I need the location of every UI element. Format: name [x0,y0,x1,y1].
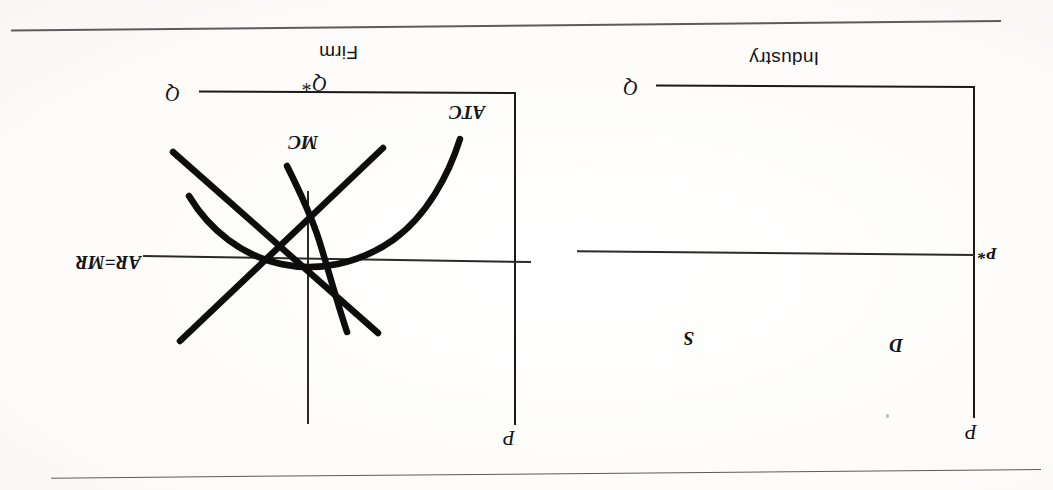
panel-industry: P Q P* S D Industry [0,0,526,490]
scanned-page: P Q AR=MR Q* ATC MC Firm P Q [0,0,1053,490]
scan-speck [886,414,889,418]
industry-supply-label: S [683,329,694,348]
industry-price-axis-label: P [965,422,977,442]
industry-quantity-axis-label: Q [624,78,638,98]
industry-panel-title: Industry [749,49,819,68]
industry-supply-demand-curves [0,0,526,490]
industry-demand-label: D [889,336,903,355]
industry-p-star-label: P* [978,245,997,262]
industry-price-axis [973,86,975,418]
scan-sheet: P Q AR=MR Q* ATC MC Firm P Q [0,0,1053,490]
